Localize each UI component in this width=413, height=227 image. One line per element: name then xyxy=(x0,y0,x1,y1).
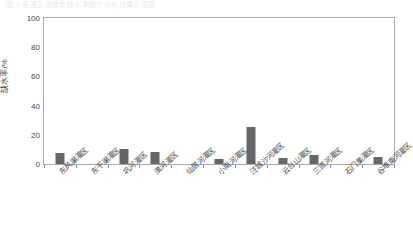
bar-slot xyxy=(330,18,362,164)
bar-slot xyxy=(299,18,331,164)
y-tick-label: 40 xyxy=(6,101,40,110)
bar-slot xyxy=(267,18,299,164)
y-tick-label: 60 xyxy=(6,72,40,81)
bar-slot xyxy=(108,18,140,164)
bar-slot xyxy=(76,18,108,164)
bar-slot xyxy=(235,18,267,164)
bars-layer xyxy=(44,18,394,164)
bar-slot xyxy=(203,18,235,164)
plot-area xyxy=(43,17,395,165)
figure-caption: 图 3 各灌区现状年缺水率统计分析结果示意图 xyxy=(6,0,236,9)
x-tick-mark xyxy=(394,165,395,168)
y-axis-ticks: 020406080100 xyxy=(4,17,40,165)
y-tick-label: 100 xyxy=(6,14,40,23)
bar-slot xyxy=(171,18,203,164)
y-tick-label: 80 xyxy=(6,43,40,52)
y-tick-label: 20 xyxy=(6,130,40,139)
y-tick-label: 0 xyxy=(6,160,40,169)
x-axis-labels: 东风渠灌区东干渠灌区巩河灌区潢河灌区仙居河灌区小南河灌区汪城沙河灌区云台山灌区三… xyxy=(44,168,394,226)
bar xyxy=(246,127,255,164)
bar-slot xyxy=(44,18,76,164)
bar-slot xyxy=(139,18,171,164)
bar-slot xyxy=(362,18,394,164)
